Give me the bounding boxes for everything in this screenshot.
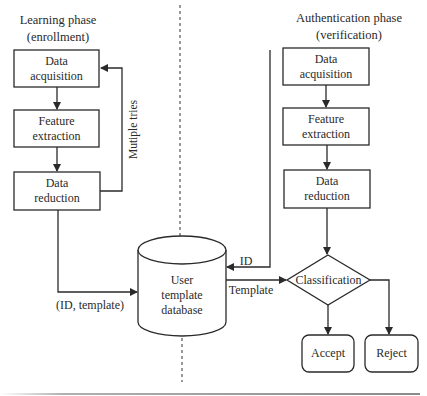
template-label: Template <box>226 283 276 298</box>
right-step-3-label: Data reduction <box>284 170 370 208</box>
left-step-2-line1: Feature <box>39 114 75 129</box>
right-step-2-label: Feature extraction <box>283 108 369 145</box>
id-template-label: (ID, template) <box>50 298 130 313</box>
left-step-3-line2: reduction <box>34 191 79 206</box>
database-label-line2: template <box>161 288 202 303</box>
id-label: ID <box>236 254 256 269</box>
left-step-3-label: Data reduction <box>14 172 100 210</box>
right-step-3-line1: Data <box>316 174 339 189</box>
reject-arrow <box>370 280 389 334</box>
learning-phase-title: Learning phase (enrollment) <box>0 12 116 46</box>
right-step-1-line2: acquisition <box>300 67 353 82</box>
auth-phase-title-line2: (verification) <box>280 27 418 44</box>
right-step-3-line2: reduction <box>304 189 349 204</box>
database-label-line3: database <box>161 303 202 318</box>
left-step-3-line1: Data <box>46 176 69 191</box>
database-label-line1: User <box>171 273 194 288</box>
database-label: User template database <box>138 270 226 320</box>
authentication-phase-title: Authentication phase (verification) <box>280 10 418 44</box>
right-step-1-label: Data acquisition <box>283 48 369 85</box>
left-step-2-line2: extraction <box>33 129 81 144</box>
right-step-2-line1: Feature <box>308 112 344 127</box>
left-step-1-line1: Data <box>45 54 68 69</box>
reject-label: Reject <box>365 335 418 372</box>
learning-phase-title-line2: (enrollment) <box>0 29 116 46</box>
multiple-tries-loop <box>100 68 122 191</box>
right-step-2-line2: extraction <box>302 127 350 142</box>
learning-phase-title-line1: Learning phase <box>0 12 116 29</box>
id-arrow <box>227 50 270 267</box>
right-step-1-line1: Data <box>315 52 338 67</box>
classification-label: Classification <box>287 272 370 288</box>
accept-label: Accept <box>302 335 354 372</box>
auth-phase-title-line1: Authentication phase <box>280 10 418 27</box>
left-step-2-label: Feature extraction <box>14 110 99 147</box>
left-step-1-label: Data acquisition <box>14 50 99 87</box>
bottom-rule <box>0 393 420 395</box>
left-step-1-line2: acquisition <box>30 69 83 84</box>
enroll-to-db-arrow <box>58 210 137 292</box>
multiple-tries-label: Mutiple tries <box>126 90 141 170</box>
